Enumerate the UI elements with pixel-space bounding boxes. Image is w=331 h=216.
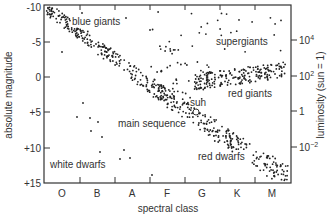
label-red-giants: red giants [228,88,272,99]
svg-text:+10: +10 [24,143,41,154]
svg-text:10−2: 10−2 [299,141,318,153]
svg-text:0: 0 [35,72,41,83]
hr-diagram: -10 -5 0 +5 +10 +15 104 102 1 10−2 O B A… [0,0,331,216]
svg-text:O: O [58,188,66,199]
svg-text:1: 1 [299,106,305,117]
svg-text:102: 102 [299,70,314,82]
label-supergiants: supergiants [216,36,268,47]
label-blue-giants: blue giants [72,16,120,27]
svg-text:104: 104 [299,34,314,46]
svg-text:K: K [234,188,241,199]
svg-text:-5: -5 [32,37,41,48]
label-sun: sun [190,97,206,108]
label-main-sequence: main sequence [118,118,186,129]
left-ticks [44,42,50,148]
svg-text:-10: -10 [27,2,42,13]
sun-marker [193,109,199,115]
right-ticks [291,40,297,147]
y-axis-right-title: luminosity (sun = 1) [315,52,326,139]
label-white-dwarfs: white dwarfs [49,159,106,170]
svg-text:G: G [198,188,206,199]
svg-text:+15: +15 [24,178,41,189]
svg-text:M: M [268,188,276,199]
svg-text:F: F [164,188,170,199]
x-tick-labels: O B A F G K M [58,188,276,199]
left-tick-labels: -10 -5 0 +5 +10 +15 [24,2,41,189]
top-ticks [80,5,255,10]
svg-text:+5: +5 [30,107,42,118]
y-axis-left-title: absolute magnitude [3,51,14,139]
label-red-dwarfs: red dwarfs [198,151,245,162]
svg-text:B: B [94,188,101,199]
x-axis-title: spectral class [138,203,199,214]
svg-text:A: A [129,188,136,199]
bottom-ticks [80,177,255,183]
